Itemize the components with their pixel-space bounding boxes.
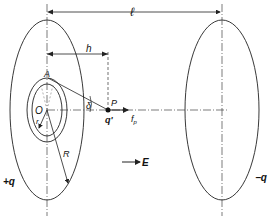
- plus-q-label: +q: [3, 176, 15, 187]
- r-label: r: [36, 117, 39, 126]
- capacitor-diagram: ℓ h A O r δ P q' fp R E +q −q: [0, 0, 271, 218]
- test-charge-point: [106, 108, 111, 113]
- E-label: E: [142, 157, 149, 168]
- q-prime-label: q': [105, 115, 113, 125]
- h-label: h: [86, 43, 92, 54]
- A-label: A: [43, 69, 50, 79]
- R-arrow: [47, 110, 68, 183]
- ring-ray-2: [47, 85, 53, 110]
- R-label: R: [63, 149, 70, 159]
- O-label: O: [35, 105, 43, 116]
- P-label: P: [111, 98, 117, 108]
- force-label: fp: [131, 114, 138, 125]
- minus-q-label: −q: [255, 172, 267, 183]
- line-A-P: [48, 78, 108, 110]
